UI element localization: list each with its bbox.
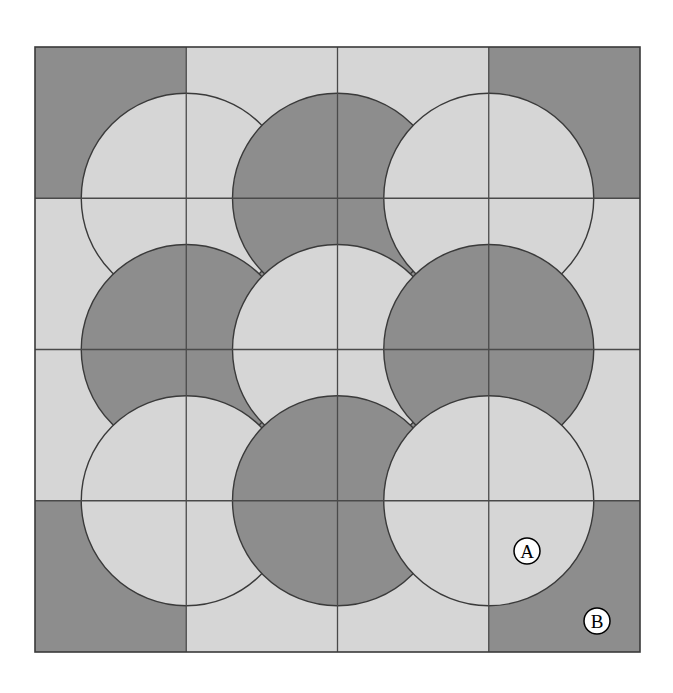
label-text-b: B [591,611,604,632]
label-marker-b: B [584,608,610,634]
figure-root: AB [0,0,673,693]
label-marker-a: A [514,538,540,564]
label-text-a: A [520,541,534,562]
tiling-figure-canvas: AB [0,0,673,693]
